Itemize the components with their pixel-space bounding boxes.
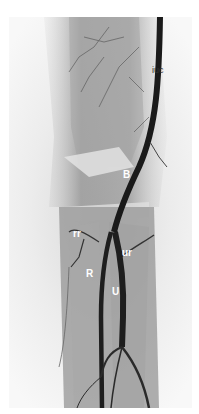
angiogram-drawing xyxy=(9,17,192,408)
label-b: B xyxy=(123,170,130,180)
label-rr: rr xyxy=(73,229,81,239)
radius-bone xyxy=(69,222,104,408)
angiogram-image: iuc B rr ur R U xyxy=(9,17,192,408)
label-iuc: iuc xyxy=(152,65,164,75)
label-ur: ur xyxy=(122,248,132,258)
label-u: U xyxy=(112,287,119,297)
label-r: R xyxy=(86,269,93,279)
